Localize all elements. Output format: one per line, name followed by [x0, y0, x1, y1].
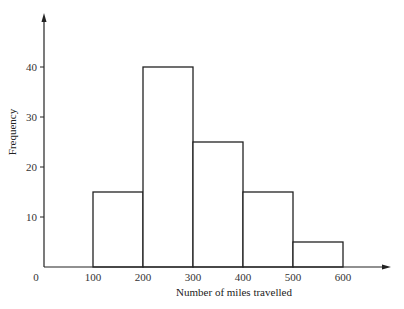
histogram-bar-500-600: [293, 242, 343, 267]
x-tick-label: 300: [185, 271, 202, 283]
histogram-bar-200-300: [143, 67, 193, 267]
x-tick-label: 500: [285, 271, 302, 283]
y-axis-arrow-icon: [42, 13, 47, 22]
x-tick-label: 200: [135, 271, 152, 283]
x-tick-label: 400: [235, 271, 252, 283]
x-tick-label: 0: [33, 271, 39, 283]
y-tick-label: 20: [26, 161, 38, 173]
y-axis-title: Frequency: [6, 108, 18, 155]
y-tick-label: 30: [26, 111, 38, 123]
histogram-bar-400-500: [243, 192, 293, 267]
histogram-bar-100-200: [93, 192, 143, 267]
y-tick-label: 10: [26, 211, 38, 223]
x-axis-title: Number of miles travelled: [176, 286, 292, 298]
x-axis-arrow-icon: [382, 265, 391, 270]
histogram-bar-300-400: [193, 142, 243, 267]
x-tick-label: 100: [85, 271, 102, 283]
x-tick-label: 600: [335, 271, 352, 283]
y-tick-label: 40: [26, 61, 38, 73]
bars: [93, 67, 343, 267]
histogram-chart: 102030400100200300400500600Number of mil…: [0, 0, 404, 309]
